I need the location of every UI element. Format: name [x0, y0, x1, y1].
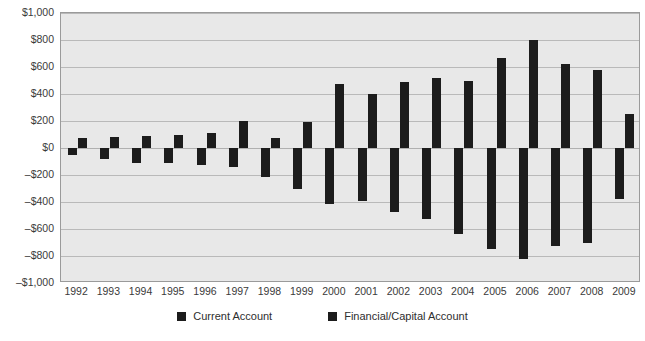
bar-financial-capital-account-2002: [400, 82, 409, 148]
bar-financial-capital-account-1995: [174, 135, 183, 148]
bar-financial-capital-account-1992: [78, 138, 87, 148]
bar-current-account-2000: [325, 148, 334, 204]
legend-swatch-icon: [177, 312, 186, 321]
bar-current-account-2001: [358, 148, 367, 201]
bar-financial-capital-account-1999: [303, 122, 312, 148]
y-axis-tick-label: $600: [0, 60, 54, 72]
x-axis-tick-label: 2008: [580, 285, 603, 297]
legend-label: Financial/Capital Account: [344, 310, 468, 322]
x-axis-tick-label: 2005: [483, 285, 506, 297]
plot-area: [60, 12, 640, 282]
bar-current-account-1998: [261, 148, 270, 177]
y-axis-tick-label: $1,000: [0, 6, 54, 18]
gridline: [61, 40, 639, 41]
x-axis-tick-label: 2006: [516, 285, 539, 297]
bar-financial-capital-account-1997: [239, 121, 248, 148]
bar-current-account-1994: [132, 148, 141, 163]
x-axis-tick-label: 2009: [612, 285, 635, 297]
x-axis-tick-label: 2001: [354, 285, 377, 297]
y-axis-tick-label: –$200: [0, 168, 54, 180]
bar-current-account-1995: [164, 148, 173, 163]
bar-financial-capital-account-2005: [497, 58, 506, 148]
bar-financial-capital-account-2009: [625, 114, 634, 148]
y-axis-tick-label: –$1,000: [0, 276, 54, 288]
bar-current-account-1996: [197, 148, 206, 165]
bar-current-account-2006: [519, 148, 528, 259]
x-axis-tick-label: 1998: [258, 285, 281, 297]
bar-financial-capital-account-2007: [561, 64, 570, 148]
legend-item: Financial/Capital Account: [328, 310, 468, 322]
bar-current-account-2003: [422, 148, 431, 219]
x-axis-tick-label: 2000: [322, 285, 345, 297]
bar-financial-capital-account-2000: [335, 84, 344, 148]
bar-current-account-1999: [293, 148, 302, 189]
y-axis-tick-label: –$400: [0, 195, 54, 207]
y-axis-tick-label: $200: [0, 114, 54, 126]
bar-financial-capital-account-2004: [464, 81, 473, 149]
y-axis-tick-label: $400: [0, 87, 54, 99]
gridline: [61, 13, 639, 14]
x-axis-tick-label: 1993: [97, 285, 120, 297]
gridline: [61, 94, 639, 95]
x-axis-tick-label: 1999: [290, 285, 313, 297]
chart-legend: Current AccountFinancial/Capital Account: [0, 310, 645, 322]
bar-current-account-2009: [615, 148, 624, 199]
gridline: [61, 67, 639, 68]
bar-financial-capital-account-2006: [529, 40, 538, 148]
x-axis-tick-label: 2002: [387, 285, 410, 297]
legend-label: Current Account: [193, 310, 272, 322]
bar-current-account-1992: [68, 148, 77, 155]
gridline: [61, 121, 639, 122]
bar-current-account-2008: [583, 148, 592, 243]
x-axis-tick-label: 1992: [64, 285, 87, 297]
balance-of-payments-chart: $1,000$800$600$400$200$0–$200–$400–$600–…: [0, 0, 645, 341]
bar-financial-capital-account-1993: [110, 137, 119, 148]
bar-current-account-1993: [100, 148, 109, 159]
bar-financial-capital-account-1998: [271, 138, 280, 148]
bar-current-account-2002: [390, 148, 399, 212]
x-axis-tick-label: 2004: [451, 285, 474, 297]
x-axis-tick-label: 2007: [548, 285, 571, 297]
y-axis-tick-label: –$800: [0, 249, 54, 261]
bar-current-account-1997: [229, 148, 238, 167]
x-axis-tick-label: 1997: [226, 285, 249, 297]
bar-financial-capital-account-2001: [368, 94, 377, 148]
bar-current-account-2004: [454, 148, 463, 234]
legend-item: Current Account: [177, 310, 272, 322]
y-axis-tick-label: $800: [0, 33, 54, 45]
legend-swatch-icon: [328, 312, 337, 321]
y-axis-tick-label: –$600: [0, 222, 54, 234]
bar-current-account-2007: [551, 148, 560, 246]
bar-financial-capital-account-1994: [142, 136, 151, 148]
x-axis-tick-label: 2003: [419, 285, 442, 297]
x-axis-tick-label: 1995: [161, 285, 184, 297]
y-axis-tick-label: $0: [0, 141, 54, 153]
bar-financial-capital-account-2003: [432, 78, 441, 148]
gridline: [61, 256, 639, 257]
bar-financial-capital-account-1996: [207, 133, 216, 148]
bar-financial-capital-account-2008: [593, 70, 602, 148]
bar-current-account-2005: [487, 148, 496, 249]
x-axis-tick-label: 1996: [193, 285, 216, 297]
x-axis-tick-label: 1994: [129, 285, 152, 297]
